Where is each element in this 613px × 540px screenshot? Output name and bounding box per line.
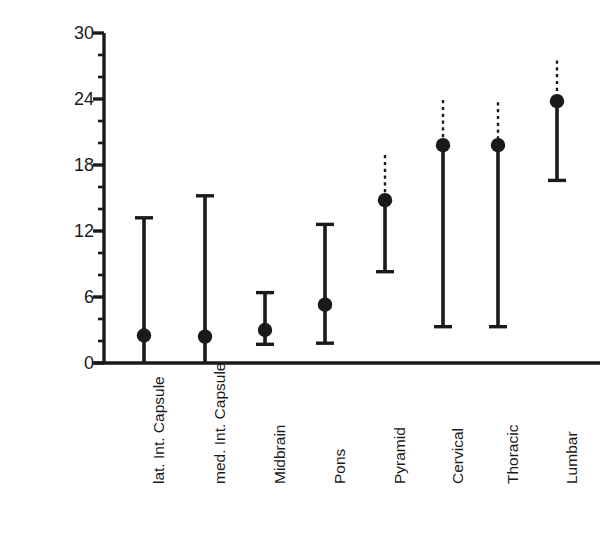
data-point-marker <box>198 329 212 343</box>
data-point-marker <box>550 94 564 108</box>
x-axis-tick-label: Pyramid <box>391 427 409 484</box>
x-axis-tick-label: Pons <box>331 449 349 484</box>
x-axis-tick-label: Cervical <box>449 428 467 484</box>
data-series-5 <box>376 155 394 272</box>
x-axis-tick-label: Lumbar <box>563 431 581 484</box>
x-axis-tick-label: Midbrain <box>271 425 289 484</box>
x-axis-tick-label: lat. Int. Capsule <box>150 376 168 484</box>
data-series-4 <box>316 224 334 343</box>
chart-figure: Postnatal Months 0612182430 lat. Int. Ca… <box>0 0 613 540</box>
x-axis-tick-label: med. Int. Capsule <box>211 363 229 484</box>
data-point-marker <box>137 328 151 342</box>
data-point-marker <box>436 138 450 152</box>
data-point-marker <box>491 138 505 152</box>
data-series-6 <box>434 100 452 327</box>
data-series-3 <box>256 293 274 345</box>
data-series-7 <box>489 102 507 326</box>
data-point-marker <box>378 193 392 207</box>
data-series-2 <box>196 196 214 363</box>
x-axis-tick-label: Thoracic <box>504 425 522 484</box>
data-series-8 <box>548 61 566 181</box>
data-point-marker <box>318 298 332 312</box>
data-series-1 <box>135 218 153 363</box>
data-point-marker <box>258 323 272 337</box>
